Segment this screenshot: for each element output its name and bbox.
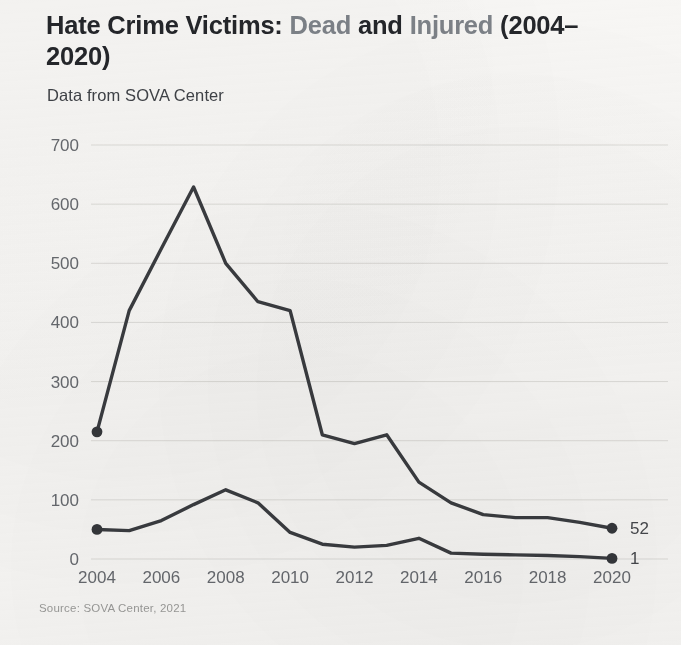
series-endpoint-dead [92,524,103,535]
line-chart: 0100200300400500600700 20042006200820102… [0,0,681,645]
x-axis-tick-label: 2020 [593,568,631,587]
x-axis-ticks: 200420062008201020122014201620182020 [78,568,631,587]
x-axis-tick-label: 2006 [142,568,180,587]
chart-page: Hate Crime Victims: Dead and Injured (20… [0,0,681,645]
gridlines-group [91,145,668,559]
y-axis-tick-label: 700 [51,136,79,155]
x-axis-tick-label: 2008 [207,568,245,587]
y-axis-ticks: 0100200300400500600700 [51,136,79,569]
y-axis-tick-label: 400 [51,313,79,332]
x-axis-tick-label: 2012 [336,568,374,587]
series-group [92,187,618,564]
series-endpoint-injured [607,523,618,534]
x-axis-tick-label: 2018 [529,568,567,587]
y-axis-tick-label: 500 [51,254,79,273]
series-endpoint-dead [607,553,618,564]
y-axis-tick-label: 200 [51,432,79,451]
series-line-injured [97,187,612,528]
source-note: Source: SOVA Center, 2021 [39,602,186,614]
y-axis-tick-label: 0 [70,550,79,569]
x-axis-tick-label: 2004 [78,568,116,587]
y-axis-tick-label: 300 [51,373,79,392]
y-axis-tick-label: 600 [51,195,79,214]
end-label-dead: 1 [630,549,639,568]
x-axis-tick-label: 2010 [271,568,309,587]
x-axis-tick-label: 2014 [400,568,438,587]
series-endpoint-injured [92,426,103,437]
end-labels-group: 521 [630,519,649,568]
x-axis-tick-label: 2016 [464,568,502,587]
y-axis-tick-label: 100 [51,491,79,510]
end-label-injured: 52 [630,519,649,538]
